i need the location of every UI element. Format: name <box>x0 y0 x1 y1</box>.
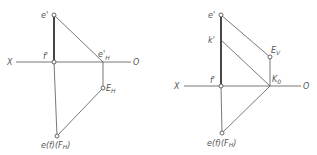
right-K0-to-bottom-line <box>222 86 270 133</box>
left-axis-o-label: O <box>133 58 139 67</box>
right-label-k-prime: k' <box>208 36 215 45</box>
left-label-e-prime: e' <box>41 11 48 20</box>
left-point-e-prime <box>52 13 56 17</box>
left-point-bottom <box>55 134 59 138</box>
right-point-f-prime <box>219 84 223 88</box>
right-label-f-prime: f' <box>210 76 215 85</box>
right-label-bottom: e(f)(FH) <box>207 139 236 148</box>
left-EH-to-bottom-line <box>57 88 103 136</box>
left-figure: X O e' f' e'H EH e(f)(FH) <box>6 11 139 150</box>
right-point-Ev <box>268 55 272 59</box>
left-label-bottom: e(f)(FH) <box>41 141 70 150</box>
right-label-K0: K0 <box>272 75 281 85</box>
right-label-Ev: EV <box>271 46 281 56</box>
left-axis-x-label: X <box>6 58 13 67</box>
left-point-EH <box>101 86 105 90</box>
left-e-to-eH-line <box>54 15 103 62</box>
right-point-e-prime <box>219 13 223 17</box>
left-label-f-prime: f' <box>43 52 48 61</box>
right-point-bottom <box>220 131 224 135</box>
right-e-to-Ev-line <box>221 15 270 57</box>
left-label-EH: EH <box>106 84 116 94</box>
right-figure: X O e' k' f' EV K0 e(f)(FH) <box>173 11 309 148</box>
right-axis-o-label: O <box>303 82 309 91</box>
right-axis-x-label: X <box>173 82 180 91</box>
left-point-f-prime <box>52 60 56 64</box>
projection-diagrams: X O e' f' e'H EH e(f)(FH) X O e' k' f' <box>0 0 317 155</box>
right-k-to-K0-line <box>221 40 270 86</box>
right-label-e-prime: e' <box>208 11 215 20</box>
left-f-to-bottom-line <box>54 62 57 136</box>
right-f-to-bottom-line <box>221 86 222 133</box>
